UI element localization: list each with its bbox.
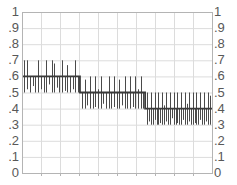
y-tick-right-5: .5 [214, 86, 232, 99]
y-tick-left-2: .8 [1, 37, 19, 50]
y-tick-right-10: 0 [214, 166, 232, 179]
y-tick-left-5: .5 [1, 86, 19, 99]
y-tick-right-0: 1 [214, 5, 232, 18]
y-axis-left-ticks: 1.9.8.7.6.5.4.3.2.10 [1, 0, 19, 185]
y-tick-left-3: .7 [1, 53, 19, 66]
y-tick-right-6: .4 [214, 102, 232, 115]
y-tick-left-10: 0 [1, 166, 19, 179]
plot-canvas [0, 0, 237, 185]
y-tick-left-1: .9 [1, 21, 19, 34]
y-tick-right-8: .2 [214, 134, 232, 147]
y-tick-right-3: .7 [214, 53, 232, 66]
y-tick-right-7: .3 [214, 118, 232, 131]
y-tick-left-7: .3 [1, 118, 19, 131]
y-tick-left-4: .6 [1, 69, 19, 82]
y-tick-right-2: .8 [214, 37, 232, 50]
y-tick-left-9: .1 [1, 150, 19, 163]
y-tick-left-6: .4 [1, 102, 19, 115]
y-tick-left-8: .2 [1, 134, 19, 147]
chart-figure: 1.9.8.7.6.5.4.3.2.10 1.9.8.7.6.5.4.3.2.1… [0, 0, 237, 185]
y-tick-right-9: .1 [214, 150, 232, 163]
y-tick-left-0: 1 [1, 5, 19, 18]
y-tick-right-4: .6 [214, 69, 232, 82]
y-tick-right-1: .9 [214, 21, 232, 34]
y-axis-right-ticks: 1.9.8.7.6.5.4.3.2.10 [214, 0, 232, 185]
